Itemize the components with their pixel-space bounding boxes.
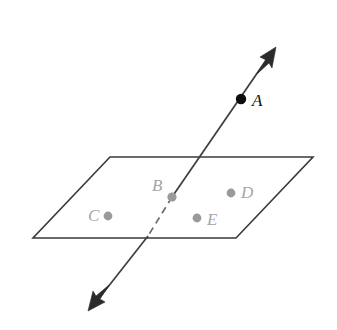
- point-dot-c: [104, 212, 113, 221]
- line-upper-segment: [172, 53, 271, 197]
- arrowhead-bottom-icon: [88, 285, 109, 311]
- arrowhead-top-icon: [257, 47, 276, 74]
- point-dot-e: [193, 214, 202, 223]
- point-label-b: B: [152, 176, 163, 195]
- geometry-figure: A B C D E: [0, 0, 337, 330]
- point-dot-a: [236, 94, 246, 104]
- line-hidden-dashed-segment: [148, 197, 172, 236]
- figure-canvas: A B C D E: [0, 0, 337, 330]
- point-label-a: A: [251, 91, 263, 110]
- point-label-c: C: [88, 206, 100, 225]
- point-dot-d: [227, 189, 236, 198]
- point-dot-b: [167, 192, 176, 201]
- point-label-e: E: [206, 210, 218, 229]
- point-label-d: D: [240, 183, 254, 202]
